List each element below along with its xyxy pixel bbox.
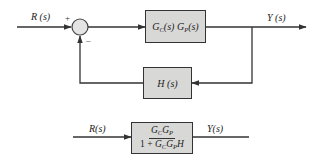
transfer-function-fraction: GCGP 1 + GCGPH bbox=[140, 126, 184, 151]
equiv-output-label-Y: Y(s) bbox=[207, 124, 223, 134]
forward-block-text: GC(s) GP(s) bbox=[152, 21, 198, 33]
minus-sign: – bbox=[86, 36, 91, 45]
equivalent-transfer-block: GCGP 1 + GCGPH bbox=[131, 122, 193, 154]
feedback-block-text: H (s) bbox=[157, 78, 177, 89]
transfer-denominator: 1 + GCGPH bbox=[140, 139, 184, 151]
summing-junction bbox=[72, 19, 88, 35]
transfer-numerator: GCGP bbox=[149, 126, 175, 139]
equiv-input-label-R: R(s) bbox=[89, 124, 106, 134]
forward-block-Gc-Gp: GC(s) GP(s) bbox=[145, 10, 206, 43]
feedback-block-H: H (s) bbox=[143, 67, 192, 99]
output-label-Y: Y (s) bbox=[267, 13, 286, 23]
input-label-R: R (s) bbox=[31, 12, 50, 22]
plus-sign: + bbox=[65, 14, 70, 23]
